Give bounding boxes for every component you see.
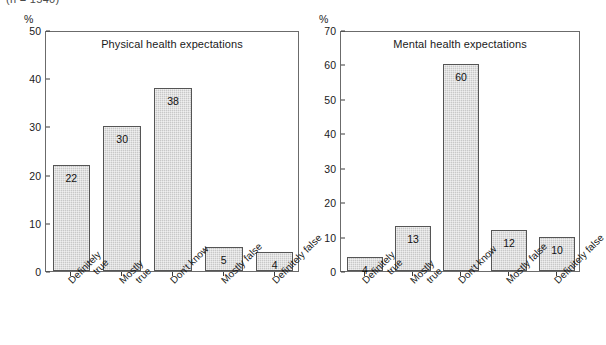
y-axis-tick-label: 10 [302, 232, 336, 244]
y-axis-tick-label: 40 [7, 73, 41, 85]
bar-value-label: 22 [53, 172, 91, 184]
y-axis-tick-mark [46, 175, 50, 176]
chart-title: Mental health expectations [341, 38, 579, 50]
y-axis-tick-mark [46, 79, 50, 80]
plot-area: Mental health expectations413601210 [340, 31, 580, 272]
y-axis-tick-label: 20 [7, 170, 41, 182]
y-axis-tick-mark [341, 65, 345, 66]
y-axis-tick-label: 30 [7, 121, 41, 133]
y-axis-tick-mark [46, 127, 50, 128]
chart-panel-mental-health: %Mental health expectations4136012100102… [295, 0, 585, 345]
y-axis-tick-label: 70 [302, 25, 336, 37]
chart-panel-physical-health: %Physical health expectations22303854010… [0, 0, 300, 345]
y-axis-unit-label: % [319, 13, 328, 25]
bar-value-label: 12 [491, 237, 527, 249]
plot-area: Physical health expectations22303854 [45, 31, 299, 272]
y-axis-tick-label: 10 [7, 218, 41, 230]
y-axis-tick-mark [341, 237, 345, 238]
bar-value-label: 60 [443, 71, 479, 83]
bar [154, 88, 192, 271]
y-axis-tick-label: 30 [302, 163, 336, 175]
y-axis-tick-mark [46, 31, 50, 32]
bar-value-label: 13 [395, 233, 431, 245]
y-axis-tick-label: 50 [302, 94, 336, 106]
y-axis-tick-label: 0 [302, 266, 336, 278]
y-axis-tick-label: 40 [302, 128, 336, 140]
y-axis-tick-mark [341, 272, 345, 273]
bar-value-label: 38 [154, 95, 192, 107]
bar [443, 64, 479, 271]
y-axis-tick-mark [341, 168, 345, 169]
chart-title: Physical health expectations [46, 38, 298, 50]
y-axis-tick-label: 0 [7, 266, 41, 278]
y-axis-tick-label: 60 [302, 59, 336, 71]
y-axis-tick-mark [341, 203, 345, 204]
bar-value-label: 30 [103, 133, 141, 145]
y-axis-tick-mark [46, 272, 50, 273]
y-axis-tick-mark [341, 134, 345, 135]
y-axis-unit-label: % [24, 13, 33, 25]
y-axis-tick-label: 50 [7, 25, 41, 37]
y-axis-tick-mark [341, 99, 345, 100]
bar [103, 126, 141, 271]
y-axis-tick-label: 20 [302, 197, 336, 209]
y-axis-tick-mark [341, 31, 345, 32]
y-axis-tick-mark [46, 223, 50, 224]
